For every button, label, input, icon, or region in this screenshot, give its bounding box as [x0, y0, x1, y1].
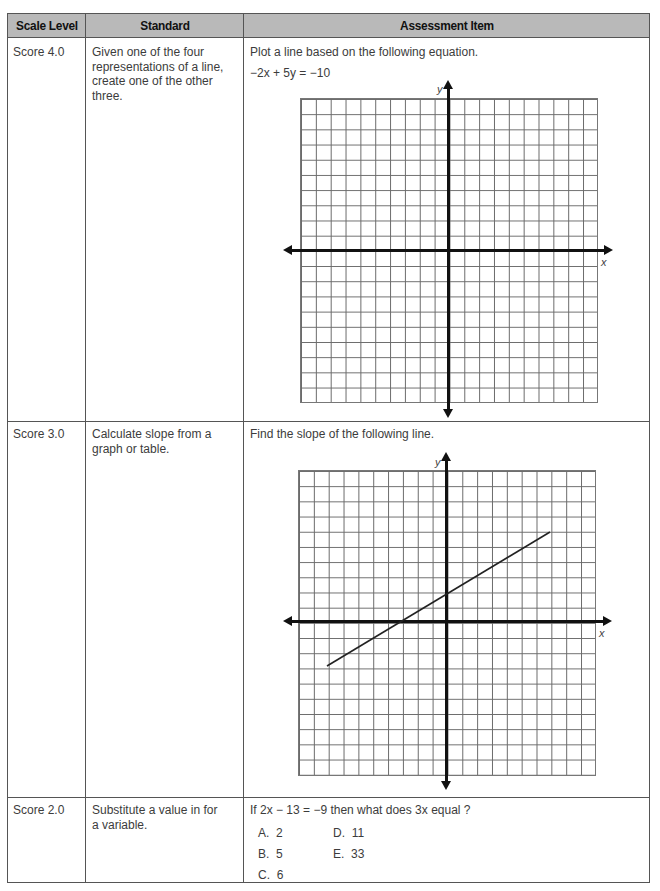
plotted-line [0, 0, 660, 891]
